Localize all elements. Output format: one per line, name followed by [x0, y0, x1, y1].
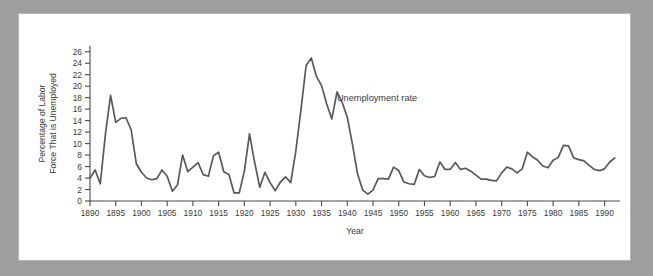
x-tick-label: 1965 [467, 208, 486, 218]
x-tick-label: 1960 [441, 208, 460, 218]
x-tick-label: 1985 [570, 208, 589, 218]
y-tick-label: 0 [77, 196, 82, 206]
x-tick-label: 1905 [158, 208, 177, 218]
x-tick-label: 1975 [518, 208, 537, 218]
unemployment-rate-line [90, 58, 615, 194]
y-tick-label: 26 [73, 47, 83, 57]
y-tick-label: 8 [77, 150, 82, 160]
x-tick-label: 1900 [132, 208, 151, 218]
x-tick-label: 1955 [415, 208, 434, 218]
figure-panel: 02468101214161820222426 1890189519001905… [18, 13, 631, 261]
y-tick-label: 12 [73, 127, 83, 137]
series-annotation-label: Unemployment rate [337, 93, 417, 103]
unemployment-rate-chart: 02468101214161820222426 1890189519001905… [19, 14, 630, 260]
y-axis-title-line2: Force That is Unemployed [48, 73, 58, 174]
x-tick-label: 1915 [209, 208, 228, 218]
y-tick-label: 16 [73, 104, 83, 114]
x-tick-label: 1935 [312, 208, 331, 218]
x-tick-label: 1890 [81, 208, 100, 218]
x-tick-label: 1970 [492, 208, 511, 218]
y-tick-label: 10 [73, 139, 83, 149]
x-tick-label: 1950 [389, 208, 408, 218]
x-axis-title: Year [346, 226, 364, 236]
x-tick-label: 1925 [261, 208, 280, 218]
x-tick-label: 1945 [364, 208, 383, 218]
x-tick-label: 1895 [106, 208, 125, 218]
x-tick-label: 1920 [235, 208, 254, 218]
y-tick-label: 18 [73, 93, 83, 103]
x-axis: 1890189519001905191019151920192519301935… [81, 201, 620, 218]
y-tick-label: 24 [73, 58, 83, 68]
y-tick-label: 20 [73, 81, 83, 91]
y-tick-label: 6 [77, 162, 82, 172]
x-tick-label: 1930 [287, 208, 306, 218]
y-tick-label: 4 [77, 173, 82, 183]
x-tick-label: 1990 [595, 208, 614, 218]
x-tick-label: 1940 [338, 208, 357, 218]
x-tick-label: 1980 [544, 208, 563, 218]
y-tick-label: 2 [77, 185, 82, 195]
y-axis-title-line1: Percentage of Labor [37, 84, 47, 162]
y-tick-label: 14 [73, 116, 83, 126]
y-axis: 02468101214161820222426 [73, 46, 90, 206]
y-tick-label: 22 [73, 70, 83, 80]
x-tick-label: 1910 [184, 208, 203, 218]
